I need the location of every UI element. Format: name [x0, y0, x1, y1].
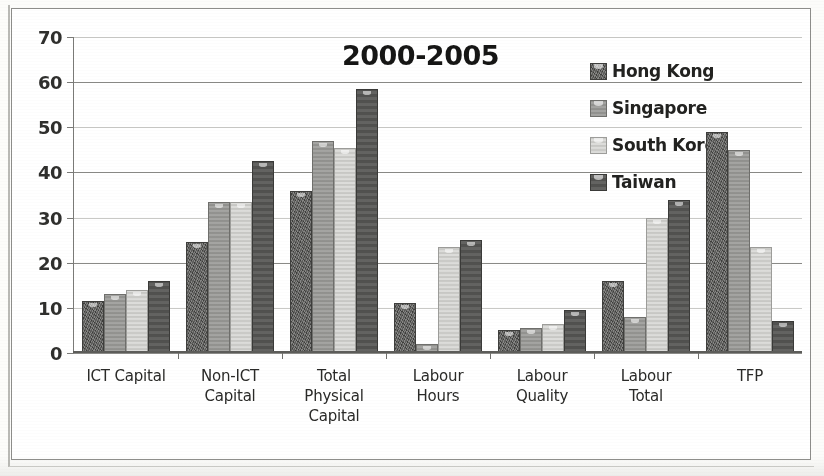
x-axis-label: LabourTotal: [594, 367, 698, 427]
bar-group: [490, 37, 594, 353]
bar: [542, 324, 564, 353]
y-axis-tick-label: 0: [50, 343, 62, 364]
y-axis-tick-label: 40: [38, 162, 62, 183]
bar-group: [698, 37, 802, 353]
x-axis-tick: [282, 353, 283, 359]
bar-group: [74, 37, 178, 353]
bar: [394, 303, 416, 353]
bar: [148, 281, 170, 353]
x-axis-tick: [698, 353, 699, 359]
y-axis-tick-label: 50: [38, 117, 62, 138]
y-axis-tick-label: 60: [38, 72, 62, 93]
bar: [290, 191, 312, 354]
bar: [312, 141, 334, 353]
bar: [334, 148, 356, 353]
y-axis-tick-label: 70: [38, 27, 62, 48]
plot-area: 010203040506070: [74, 37, 802, 353]
bar-groups: [74, 37, 802, 353]
bar: [602, 281, 624, 353]
bar: [624, 317, 646, 353]
x-axis-label: ICT Capital: [74, 367, 178, 427]
bar: [646, 218, 668, 353]
chart-container: 2000-2005 Hong KongSingaporeSouth KoreaT…: [11, 8, 811, 460]
gridline: [74, 353, 802, 354]
bar: [252, 161, 274, 353]
x-axis-tick: [490, 353, 491, 359]
bar: [208, 202, 230, 353]
bar-group: [594, 37, 698, 353]
x-axis-label: TFP: [698, 367, 802, 427]
x-axis-label: TotalPhysicalCapital: [282, 367, 386, 427]
x-axis-tick: [594, 353, 595, 359]
x-axis-line: [73, 351, 802, 353]
bar: [126, 290, 148, 353]
bar: [520, 328, 542, 353]
y-axis-tick-label: 10: [38, 297, 62, 318]
bar: [356, 89, 378, 353]
bar: [706, 132, 728, 353]
scanned-page: 2000-2005 Hong KongSingaporeSouth KoreaT…: [0, 0, 824, 476]
bar: [82, 301, 104, 353]
bar: [564, 310, 586, 353]
bar-group: [178, 37, 282, 353]
bar: [230, 202, 252, 353]
y-axis-tick: [67, 353, 74, 354]
x-axis-label: LabourQuality: [490, 367, 594, 427]
x-axis-label: Non-ICTCapital: [178, 367, 282, 427]
x-axis-labels: ICT CapitalNon-ICTCapitalTotalPhysicalCa…: [74, 367, 802, 427]
bar: [460, 240, 482, 353]
bar: [104, 294, 126, 353]
bar: [186, 242, 208, 353]
bar: [750, 247, 772, 353]
y-axis-tick-label: 20: [38, 252, 62, 273]
y-axis-line: [73, 37, 74, 353]
bar: [498, 330, 520, 353]
bar-group: [386, 37, 490, 353]
bar-group: [282, 37, 386, 353]
x-axis-tick: [386, 353, 387, 359]
x-axis-tick: [178, 353, 179, 359]
bar: [438, 247, 460, 353]
x-axis-label: LabourHours: [386, 367, 490, 427]
y-axis-tick-label: 30: [38, 207, 62, 228]
bar: [668, 200, 690, 353]
bar: [772, 321, 794, 353]
bar: [728, 150, 750, 353]
